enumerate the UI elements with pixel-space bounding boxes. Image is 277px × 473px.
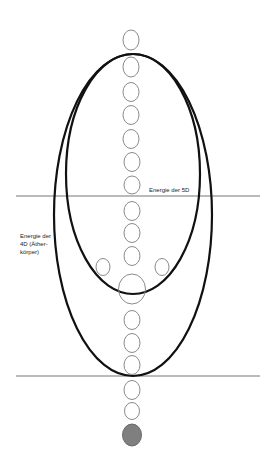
circle xyxy=(124,381,140,400)
label-energy-4d-line2: 4D (Äther- xyxy=(20,240,51,248)
circle xyxy=(124,224,140,243)
outer-ellipse-4d xyxy=(54,54,212,376)
label-energy-4d-line1: Energie der xyxy=(20,232,51,240)
label-energy-4d: Energie der 4D (Äther- körper) xyxy=(20,232,51,256)
inner-ellipse-5d xyxy=(66,54,200,294)
circle xyxy=(123,57,139,77)
left-side-circle xyxy=(96,259,110,276)
circle xyxy=(124,202,140,221)
label-energy-4d-line3: körper) xyxy=(20,248,51,256)
circle xyxy=(124,311,140,330)
circle xyxy=(123,130,139,149)
right-side-circle xyxy=(155,259,169,276)
circle xyxy=(124,334,140,353)
circle xyxy=(124,356,140,375)
circle xyxy=(124,176,140,194)
label-energy-5d: Energie der 5D xyxy=(149,186,189,194)
circle xyxy=(124,247,140,266)
chakra-column xyxy=(96,30,169,420)
filled-root-circle xyxy=(123,424,142,446)
circle xyxy=(123,83,139,102)
circle xyxy=(123,106,139,125)
circle xyxy=(124,153,140,172)
circle xyxy=(123,30,139,50)
circle xyxy=(125,403,140,420)
large-circle xyxy=(119,274,146,304)
